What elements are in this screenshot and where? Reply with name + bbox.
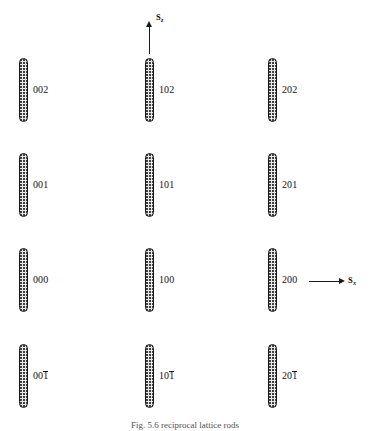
sz-axis-subscript: z bbox=[161, 16, 163, 23]
relrod-label-r0c1: 102 bbox=[159, 85, 174, 95]
sz-arrowhead-icon bbox=[146, 21, 152, 27]
relrod-label-index: 1 bbox=[292, 179, 297, 190]
relrod-001bar bbox=[19, 344, 28, 408]
relrod-label-r1c1: 101 bbox=[159, 180, 174, 190]
sz-axis-label: Sz bbox=[156, 13, 163, 22]
figure-caption: Fig. 5.6 reciprocal lattice rods bbox=[0, 421, 370, 431]
relrod-label-prefix: 10 bbox=[159, 274, 169, 285]
relrod-label-prefix: 20 bbox=[282, 370, 292, 381]
sx-axis-subscript: x bbox=[353, 279, 356, 286]
relrod-label-prefix: 00 bbox=[33, 370, 43, 381]
relrod-label-index: 0 bbox=[169, 274, 174, 285]
relrod-label-index: 2 bbox=[43, 84, 48, 95]
relrod-label-index: 0 bbox=[43, 274, 48, 285]
sz-axis-arrow bbox=[149, 26, 150, 54]
relrod-100 bbox=[145, 248, 154, 312]
relrod-label-index: 0 bbox=[292, 274, 297, 285]
relrod-101bar bbox=[145, 344, 154, 408]
relrod-label-prefix: 20 bbox=[282, 84, 292, 95]
relrod-label-index: 1 bbox=[169, 179, 174, 190]
relrod-label-r1c2: 201 bbox=[282, 180, 297, 190]
relrod-201bar bbox=[268, 344, 277, 408]
relrod-label-r0c0: 002 bbox=[33, 85, 48, 95]
relrod-002 bbox=[19, 58, 28, 122]
sx-axis-label: Sx bbox=[348, 276, 356, 285]
relrod-label-index: 1 bbox=[43, 371, 48, 381]
relrod-label-prefix: 00 bbox=[33, 179, 43, 190]
relrod-label-index: 1 bbox=[292, 371, 297, 381]
relrod-label-index: 1 bbox=[169, 371, 174, 381]
relrod-000 bbox=[19, 248, 28, 312]
relrod-label-prefix: 20 bbox=[282, 274, 292, 285]
relrod-label-prefix: 00 bbox=[33, 84, 43, 95]
sx-arrowhead-icon bbox=[339, 278, 345, 284]
relrod-label-index: 1 bbox=[43, 179, 48, 190]
relrod-label-r2c1: 100 bbox=[159, 275, 174, 285]
relrod-label-r3c0: 001 bbox=[33, 371, 48, 381]
relrod-102 bbox=[145, 58, 154, 122]
relrod-201 bbox=[268, 153, 277, 217]
relrod-label-r2c2: 200 bbox=[282, 275, 297, 285]
relrod-label-prefix: 10 bbox=[159, 179, 169, 190]
relrod-label-r3c2: 201 bbox=[282, 371, 297, 381]
relrod-label-index: 2 bbox=[292, 84, 297, 95]
relrod-001 bbox=[19, 153, 28, 217]
relrod-label-prefix: 10 bbox=[159, 370, 169, 381]
sx-axis-arrow bbox=[309, 281, 340, 282]
relrod-label-r2c0: 000 bbox=[33, 275, 48, 285]
relrod-label-prefix: 20 bbox=[282, 179, 292, 190]
relrod-101 bbox=[145, 153, 154, 217]
relrod-label-prefix: 10 bbox=[159, 84, 169, 95]
relrod-202 bbox=[268, 58, 277, 122]
relrod-200 bbox=[268, 248, 277, 312]
relrod-label-prefix: 00 bbox=[33, 274, 43, 285]
relrod-label-r0c2: 202 bbox=[282, 85, 297, 95]
relrod-label-r1c0: 001 bbox=[33, 180, 48, 190]
relrod-label-index: 2 bbox=[169, 84, 174, 95]
relrod-label-r3c1: 101 bbox=[159, 371, 174, 381]
